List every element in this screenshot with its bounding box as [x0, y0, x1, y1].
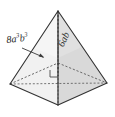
label-slant-exp-b: 3	[24, 30, 28, 37]
figure-canvas: 8a3b3 6ab	[0, 0, 115, 117]
pyramid-diagram	[0, 0, 115, 117]
